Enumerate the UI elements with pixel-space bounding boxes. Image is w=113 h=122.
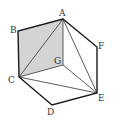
label-b: B [10, 25, 17, 35]
label-c: C [8, 75, 15, 85]
diagonal-ae [63, 19, 97, 93]
label-a: A [58, 8, 66, 18]
hexagon-cube-diagram: A B C G F E D [0, 0, 113, 122]
label-f: F [98, 41, 104, 51]
label-d: D [47, 107, 54, 117]
label-e: E [98, 93, 105, 103]
diagonal-ce [19, 77, 97, 93]
label-g: G [54, 56, 61, 66]
edge-ge [63, 65, 97, 93]
